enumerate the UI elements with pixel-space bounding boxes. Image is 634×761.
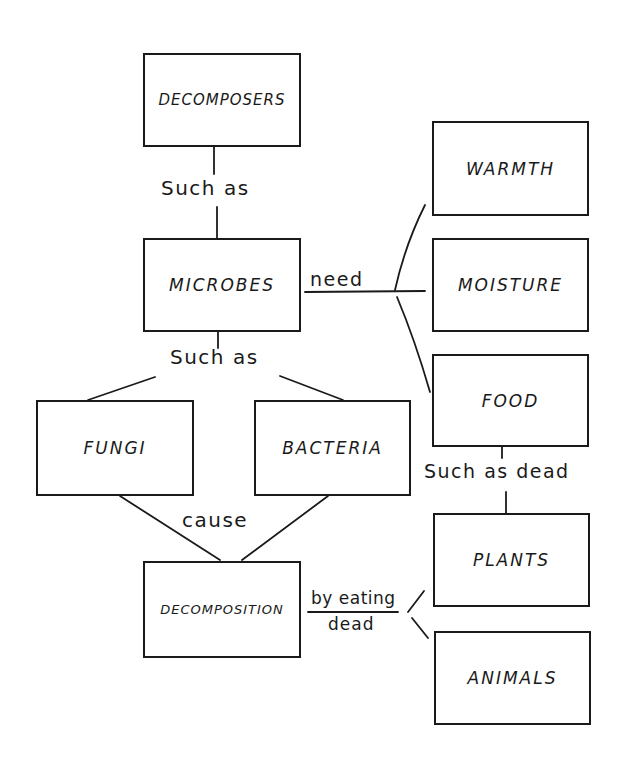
concept-map-canvas: DECOMPOSERS MICROBES WARMTH MOISTURE FOO… bbox=[0, 0, 634, 761]
link-label-dead: dead bbox=[328, 614, 374, 634]
node-label: FUNGI bbox=[83, 438, 146, 458]
link-label-cause: cause bbox=[182, 508, 248, 532]
node-label: FOOD bbox=[482, 391, 540, 411]
node-food[interactable]: FOOD bbox=[432, 354, 589, 447]
node-warmth[interactable]: WARMTH bbox=[432, 121, 589, 216]
node-label: WARMTH bbox=[466, 159, 555, 179]
node-decomposers[interactable]: DECOMPOSERS bbox=[143, 53, 301, 147]
node-decomposition[interactable]: DECOMPOSITION bbox=[143, 561, 301, 658]
link-label-decomposers-microbes: Such as bbox=[161, 176, 250, 200]
node-label: ANIMALS bbox=[468, 668, 558, 688]
node-moisture[interactable]: MOISTURE bbox=[432, 238, 589, 332]
link-label-by-eating: by eating bbox=[311, 588, 396, 608]
node-animals[interactable]: ANIMALS bbox=[434, 631, 591, 725]
node-label: DECOMPOSERS bbox=[158, 91, 285, 109]
node-bacteria[interactable]: BACTERIA bbox=[254, 400, 411, 496]
node-label: MOISTURE bbox=[458, 275, 563, 295]
node-label: DECOMPOSITION bbox=[160, 602, 284, 617]
node-microbes[interactable]: MICROBES bbox=[143, 238, 301, 332]
node-label: BACTERIA bbox=[282, 438, 383, 458]
node-label: PLANTS bbox=[473, 550, 550, 570]
link-label-food-such-as-dead: Such as dead bbox=[424, 460, 570, 482]
link-label-microbes-need: need bbox=[310, 268, 363, 290]
node-label: MICROBES bbox=[169, 275, 275, 295]
link-label-microbes-such-as: Such as bbox=[170, 345, 259, 369]
node-plants[interactable]: PLANTS bbox=[433, 513, 590, 607]
node-fungi[interactable]: FUNGI bbox=[36, 400, 194, 496]
